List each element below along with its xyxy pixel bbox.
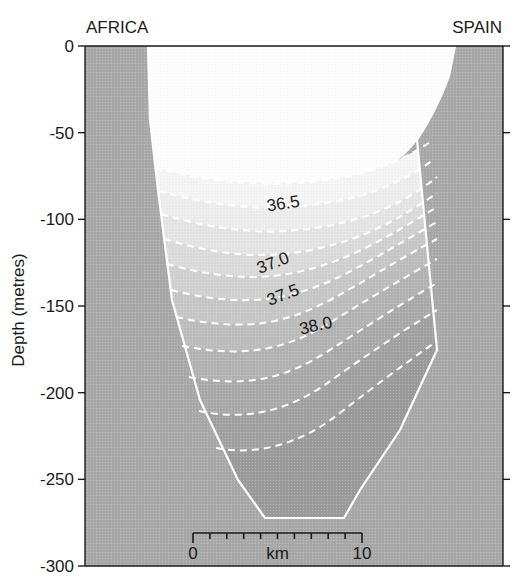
salinity-cross-section-figure: 36.537.037.538.0 0-50-100-150-200-250-30… (0, 0, 526, 583)
scalebar-label-end: 10 (353, 544, 372, 563)
y-tick-label--300: -300 (40, 557, 74, 576)
y-tick-label-0: 0 (65, 37, 74, 56)
label-africa: AFRICA (86, 18, 149, 37)
plot-area (85, 46, 503, 566)
label-spain: SPAIN (452, 18, 502, 37)
scalebar-label-unit: km (266, 544, 289, 563)
scalebar-label-start: 0 (188, 544, 197, 563)
y-tick-label--150: -150 (40, 297, 74, 316)
y-tick-label--250: -250 (40, 470, 74, 489)
y-axis-title: Depth (metres) (9, 253, 28, 366)
y-tick-label--100: -100 (40, 210, 74, 229)
y-tick-label--200: -200 (40, 384, 74, 403)
y-tick-label--50: -50 (49, 124, 74, 143)
